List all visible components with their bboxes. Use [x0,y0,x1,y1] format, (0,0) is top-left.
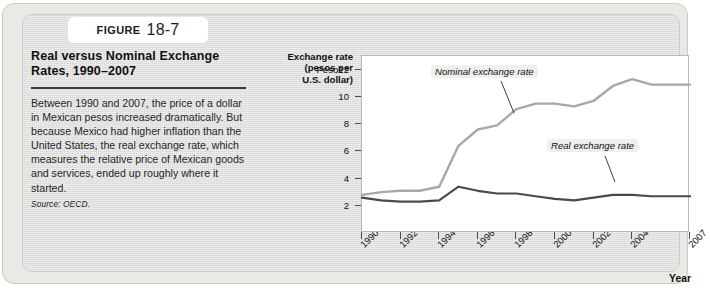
figure-title: Real versus Nominal Exchange Rates, 1990… [31,49,259,79]
y-tick-label: 4 [344,172,349,183]
series-lines [362,56,690,233]
title-divider [31,87,246,89]
y-axis-ticks: 246810Peso12 [271,55,357,232]
plot-area [361,55,689,232]
y-tick-label: 2 [344,199,349,210]
nominal-series-label: Nominal exchange rate [431,65,538,78]
real-leader-line [605,156,615,182]
y-tick-label: 10 [338,90,349,101]
figure-screenshot: FIGURE 18-7 Real versus Nominal Exchange… [0,0,710,303]
chart: Exchange rate (pesos per U.S. dollar) 24… [271,37,701,287]
figure-tab-number: 18-7 [147,21,180,39]
y-tick-label: 8 [344,118,349,129]
figure-source: Source: OECD. [31,199,259,209]
real-exchange-rate-line [362,187,690,202]
y-tick-label: 6 [344,145,349,156]
figure-panel: FIGURE 18-7 Real versus Nominal Exchange… [22,14,680,272]
figure-text-column: Real versus Nominal Exchange Rates, 1990… [31,49,259,209]
real-series-label: Real exchange rate [547,139,638,152]
nominal-exchange-rate-line [362,79,690,195]
x-axis-title: Year [669,273,691,284]
y-tick-label: Peso12 [316,63,349,74]
figure-caption: Between 1990 and 2007, the price of a do… [31,96,247,195]
nominal-leader-line [501,81,514,113]
figure-tab-word: FIGURE [97,24,141,36]
figure-tab: FIGURE 18-7 [68,17,208,43]
